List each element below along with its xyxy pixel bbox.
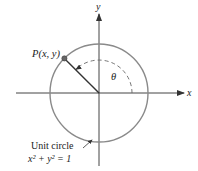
unit-circle-diagram: P(x, y) θ x y Unit circle x² + y² = 1 xyxy=(0,0,198,171)
point-p-label: P(x, y) xyxy=(31,48,60,60)
x-axis-label: x xyxy=(186,87,192,98)
point-p xyxy=(62,56,67,61)
theta-label: θ xyxy=(111,71,116,82)
y-axis-label: y xyxy=(95,1,101,12)
caption-title: Unit circle xyxy=(31,140,74,151)
angle-arc xyxy=(76,60,132,93)
angle-arrow-icon xyxy=(76,68,79,70)
radius-line xyxy=(64,58,99,93)
caption-equation: x² + y² = 1 xyxy=(27,153,71,164)
